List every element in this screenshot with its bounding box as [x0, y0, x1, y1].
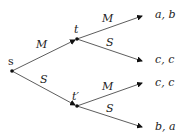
payoff-3: c, c [155, 76, 174, 89]
payoff-4: b, a [155, 120, 176, 133]
node-label-tprime: t′ [72, 90, 79, 103]
edge-label-t-1: M [101, 12, 114, 25]
edge-label-s-tprime: S [40, 73, 48, 86]
node-tprime [75, 104, 79, 108]
node-label-s: s [8, 55, 14, 68]
edge-label-t-2: S [106, 36, 114, 49]
node-t [75, 37, 79, 41]
node-s [10, 69, 14, 73]
game-tree-diagram: s t t′ M S M S M S a, b c, c c, c b, a [0, 0, 181, 140]
edge-label-tprime-2: S [106, 102, 114, 115]
payoff-2: c, c [155, 53, 174, 66]
node-label-t: t [74, 23, 79, 36]
edge-label-tprime-1: M [101, 80, 114, 93]
edge-label-s-t: M [35, 38, 48, 51]
payoff-1: a, b [155, 8, 176, 21]
